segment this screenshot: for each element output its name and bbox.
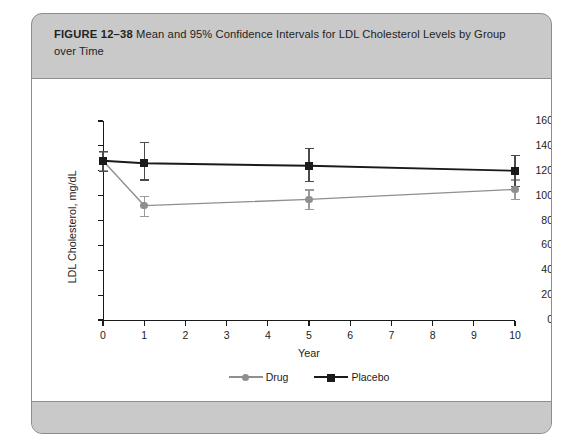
error-bar-cap	[140, 216, 149, 217]
x-tick-label: 3	[215, 329, 239, 341]
x-tick-label: 7	[379, 329, 403, 341]
figure-panel: FIGURE 12–38 Mean and 95% Confidence Int…	[31, 13, 552, 434]
error-bar-cap	[511, 155, 520, 156]
y-tick-label: 60	[517, 238, 552, 250]
chart-area: 020406080100120140160 012345678910 LDL C…	[32, 79, 552, 403]
y-tick-mark	[98, 220, 103, 221]
data-point-placebo	[511, 167, 519, 175]
data-point-placebo	[140, 159, 148, 167]
figure-number: FIGURE 12–38	[54, 28, 133, 40]
y-tick-label: 160	[517, 114, 552, 126]
x-tick-mark	[432, 321, 433, 326]
y-tick-mark	[98, 270, 103, 271]
y-tick-label: 0	[517, 313, 552, 325]
figure-caption: FIGURE 12–38 Mean and 95% Confidence Int…	[54, 26, 529, 59]
x-tick-mark	[473, 321, 474, 326]
y-tick-mark	[98, 120, 103, 121]
x-tick-label: 4	[256, 329, 280, 341]
x-tick-label: 8	[421, 329, 445, 341]
legend-item-placebo[interactable]: Placebo	[314, 371, 389, 383]
y-axis-title: LDL Cholesterol, mg/dL	[66, 127, 78, 327]
legend-swatch-icon	[314, 372, 348, 382]
x-tick-mark	[226, 321, 227, 326]
x-tick-mark	[185, 321, 186, 326]
x-tick-mark	[267, 321, 268, 326]
error-bar-cap	[305, 209, 314, 210]
error-bar-cap	[305, 181, 314, 182]
y-tick-mark	[98, 245, 103, 246]
y-tick-label: 140	[517, 139, 552, 151]
x-tick-mark	[514, 321, 515, 326]
y-tick-label: 100	[517, 189, 552, 201]
x-tick-label: 9	[462, 329, 486, 341]
x-tick-mark	[391, 321, 392, 326]
y-tick-label: 40	[517, 263, 552, 275]
legend-item-drug[interactable]: Drug	[229, 371, 289, 383]
data-point-drug	[511, 186, 519, 194]
legend-swatch-icon	[229, 372, 263, 382]
x-tick-label: 10	[503, 329, 527, 341]
error-bar-cap	[511, 199, 520, 200]
error-bar-cap	[140, 196, 149, 197]
error-bar-cap	[305, 189, 314, 190]
x-tick-mark	[102, 321, 103, 326]
x-tick-label: 1	[132, 329, 156, 341]
error-bar-cap	[140, 179, 149, 180]
x-tick-label: 6	[338, 329, 362, 341]
y-tick-mark	[98, 195, 103, 196]
data-point-placebo	[99, 157, 107, 165]
y-tick-label: 20	[517, 288, 552, 300]
figure-footer-bar	[32, 402, 552, 434]
y-tick-mark	[98, 145, 103, 146]
data-point-drug	[140, 202, 148, 210]
y-tick-mark	[98, 295, 103, 296]
data-point-placebo	[305, 162, 313, 170]
figure-caption-bar: FIGURE 12–38 Mean and 95% Confidence Int…	[32, 14, 551, 78]
chart-legend: DrugPlacebo	[103, 371, 515, 383]
x-tick-label: 2	[173, 329, 197, 341]
error-bar-cap	[99, 151, 108, 152]
y-tick-label: 120	[517, 164, 552, 176]
x-tick-mark	[308, 321, 309, 326]
x-axis-title: Year	[103, 347, 515, 359]
x-tick-label: 0	[91, 329, 115, 341]
x-tick-label: 5	[297, 329, 321, 341]
error-bar-cap	[99, 171, 108, 172]
x-tick-mark	[350, 321, 351, 326]
error-bar-cap	[305, 148, 314, 149]
data-point-drug	[305, 196, 313, 204]
legend-label: Placebo	[351, 371, 389, 383]
y-tick-label: 80	[517, 214, 552, 226]
x-tick-mark	[144, 321, 145, 326]
legend-label: Drug	[266, 371, 289, 383]
plot-card: 020406080100120140160 012345678910 LDL C…	[32, 78, 552, 402]
error-bar-cap	[140, 142, 149, 143]
